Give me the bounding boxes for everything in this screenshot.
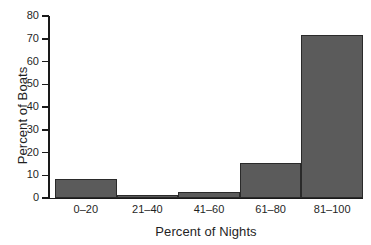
bar [117,195,179,198]
y-axis-tick-label: 30 [0,124,39,135]
bar [55,179,117,198]
y-axis-tick [42,129,49,131]
bars-group [49,16,363,198]
y-axis-tick [42,106,49,108]
y-axis-tick [42,197,49,199]
x-axis-title: Percent of Nights [49,224,363,239]
y-axis-tick [42,61,49,63]
y-axis-tick-label: 40 [0,101,39,112]
y-axis-tick [42,152,49,154]
bar [301,35,363,198]
y-axis-tick-label: 80 [0,10,39,21]
x-axis-tick-label: 41–60 [178,203,240,215]
y-axis-tick [42,38,49,40]
y-axis-tick-labels: 01020304050607080 [0,0,39,245]
x-axis-tick-label: 0–20 [55,203,117,215]
x-axis-tick-label: 21–40 [117,203,179,215]
y-axis-tick-label: 60 [0,56,39,67]
y-axis-tick [42,15,49,17]
y-axis-tick-label: 10 [0,169,39,180]
x-axis-tick-label: 81–100 [301,203,363,215]
y-axis-tick-label: 50 [0,78,39,89]
bar [240,163,302,198]
histogram-chart: Percent of Boats 01020304050607080 0–202… [0,0,371,245]
y-axis-tick-label: 0 [0,192,39,203]
x-axis-tick-label: 61–80 [240,203,302,215]
y-axis-tick [42,84,49,86]
y-axis-tick-label: 70 [0,33,39,44]
y-axis-tick [42,175,49,177]
bar [178,192,240,198]
y-axis-tick-label: 20 [0,147,39,158]
